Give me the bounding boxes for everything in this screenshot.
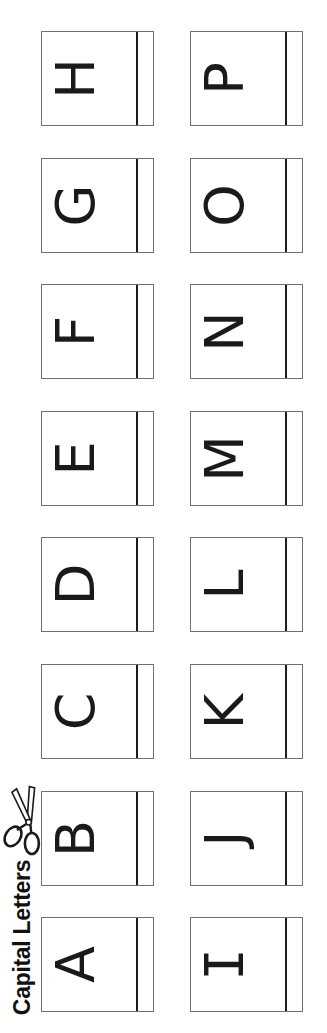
letter-card-k: K bbox=[190, 664, 303, 759]
card-divider-line bbox=[136, 792, 138, 885]
card-letter-text: D bbox=[49, 564, 103, 606]
letter-cards-grid: H P G O F N E M bbox=[41, 31, 303, 1012]
letter-card-j: J bbox=[190, 791, 303, 886]
card-divider-line bbox=[285, 792, 287, 885]
card-letter: G bbox=[29, 172, 122, 239]
letter-card-p: P bbox=[190, 31, 303, 126]
letter-card-a: A bbox=[41, 917, 154, 1012]
card-divider-line bbox=[285, 159, 287, 252]
card-letter-text: A bbox=[49, 946, 103, 983]
card-letter-text: P bbox=[198, 62, 252, 95]
card-divider-line bbox=[285, 32, 287, 125]
card-divider-line bbox=[136, 412, 138, 505]
card-divider-line bbox=[136, 159, 138, 252]
card-letter: P bbox=[178, 45, 271, 112]
letter-card-b: B bbox=[41, 791, 154, 886]
card-letter-text: H bbox=[49, 58, 103, 99]
card-letter: A bbox=[29, 931, 122, 998]
letter-card-d: D bbox=[41, 537, 154, 632]
letter-card-f: F bbox=[41, 284, 154, 379]
card-letter: O bbox=[178, 172, 271, 239]
card-letter-text: F bbox=[49, 316, 103, 347]
card-letter: J bbox=[178, 805, 271, 872]
card-letter: H bbox=[29, 45, 122, 112]
card-letter: K bbox=[178, 678, 271, 745]
card-letter: M bbox=[178, 425, 271, 492]
card-divider-line bbox=[285, 412, 287, 505]
card-letter: L bbox=[178, 551, 271, 618]
card-letter-text: K bbox=[198, 694, 252, 729]
card-divider-line bbox=[136, 285, 138, 378]
card-divider-line bbox=[136, 918, 138, 1011]
letter-card-m: M bbox=[190, 411, 303, 506]
card-divider-line bbox=[285, 665, 287, 758]
letter-card-n: N bbox=[190, 284, 303, 379]
letter-card-i: I bbox=[190, 917, 303, 1012]
letter-card-l: L bbox=[190, 537, 303, 632]
card-letter-text: J bbox=[198, 830, 252, 846]
letter-card-c: C bbox=[41, 664, 154, 759]
card-divider-line bbox=[285, 285, 287, 378]
card-letter: I bbox=[178, 931, 271, 998]
card-divider-line bbox=[285, 918, 287, 1011]
card-letter: F bbox=[29, 298, 122, 365]
card-letter: E bbox=[29, 425, 122, 492]
card-letter-text: C bbox=[49, 693, 103, 731]
card-divider-line bbox=[136, 32, 138, 125]
card-letter-text: O bbox=[198, 184, 252, 227]
letter-card-g: G bbox=[41, 158, 154, 253]
card-letter-text: L bbox=[198, 570, 252, 600]
worksheet-page: H P G O F N E M bbox=[0, 0, 327, 1033]
letter-card-o: O bbox=[190, 158, 303, 253]
card-divider-line bbox=[136, 665, 138, 758]
card-letter-text: I bbox=[198, 948, 252, 981]
card-letter-text: M bbox=[198, 435, 252, 482]
letter-card-e: E bbox=[41, 411, 154, 506]
card-divider-line bbox=[136, 538, 138, 631]
card-letter: C bbox=[29, 678, 122, 745]
card-letter: N bbox=[178, 298, 271, 365]
card-letter-text: E bbox=[49, 441, 103, 475]
letter-card-h: H bbox=[41, 31, 154, 126]
page-title: Capital Letters bbox=[9, 858, 36, 1017]
card-letter-text: N bbox=[198, 311, 252, 351]
card-letter: D bbox=[29, 551, 122, 618]
card-letter-text: B bbox=[49, 820, 103, 857]
card-letter-text: G bbox=[49, 184, 103, 226]
scissors-icon bbox=[2, 781, 46, 859]
card-divider-line bbox=[285, 538, 287, 631]
